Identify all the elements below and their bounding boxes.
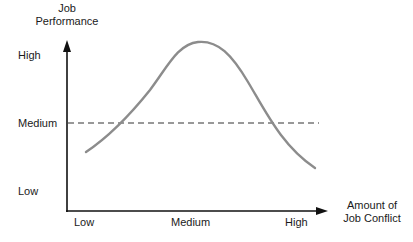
y-axis-title-line2: Performance <box>34 15 100 28</box>
x-tick-medium: Medium <box>171 216 210 229</box>
x-axis-title-line1: Amount of <box>333 199 411 212</box>
y-tick-medium: Medium <box>18 117 57 130</box>
y-axis-arrow-icon <box>63 40 71 52</box>
x-tick-low: Low <box>74 216 94 229</box>
y-axis-title: Job Performance <box>34 2 100 28</box>
y-axis-title-line1: Job <box>34 2 100 15</box>
x-axis-title: Amount of Job Conflict <box>333 199 411 225</box>
performance-curve <box>86 42 315 168</box>
x-axis-title-line2: Job Conflict <box>333 212 411 225</box>
y-tick-low: Low <box>18 185 38 198</box>
x-axis-arrow-icon <box>316 207 328 215</box>
y-tick-high: High <box>18 49 41 62</box>
x-tick-high: High <box>285 216 308 229</box>
